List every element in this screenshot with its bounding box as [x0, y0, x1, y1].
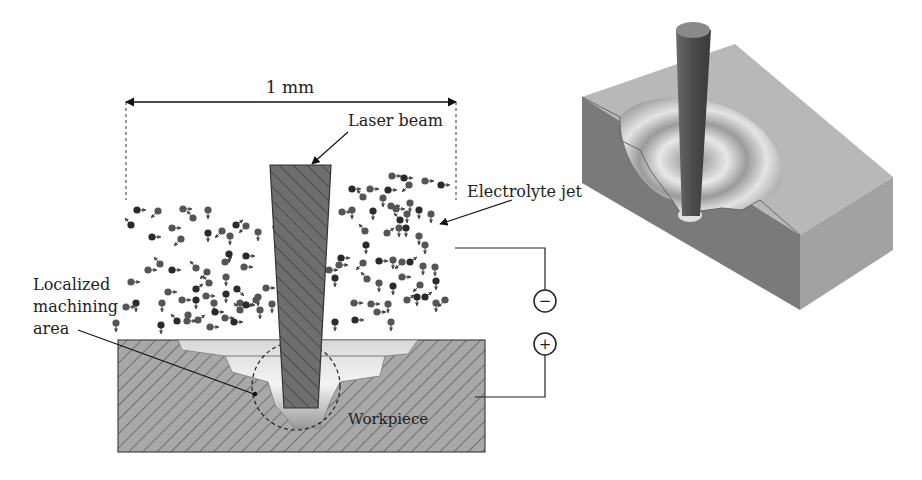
particle-dot: [388, 172, 395, 179]
electrolyte-particle: [398, 273, 411, 280]
electrolyte-particle: [383, 228, 394, 237]
particle-dot: [359, 259, 366, 266]
electrolyte-particle: [406, 199, 413, 212]
particle-dot: [389, 256, 396, 263]
electrolyte-particle: [361, 272, 371, 283]
electrolyte-particle: [403, 295, 414, 304]
electrolyte-particle: [366, 185, 379, 192]
localized-label-line2: machining: [33, 297, 118, 316]
electrolyte-particle: [226, 232, 233, 245]
particle-dot: [437, 181, 444, 188]
particle-dot: [156, 260, 163, 267]
laser-beam-pointer: [312, 132, 348, 164]
electrolyte-particle: [125, 218, 135, 229]
particle-dot: [192, 264, 199, 271]
particle-dot: [379, 194, 386, 201]
particle-dot: [413, 293, 420, 300]
localized-area-pointer-dot: [253, 392, 257, 396]
electrolyte-particle: [415, 206, 422, 219]
particle-dot: [204, 229, 211, 236]
electrolyte-particle: [192, 296, 199, 309]
particle-dot: [133, 206, 140, 213]
particle-dot: [441, 296, 448, 303]
electrolyte-particle: [192, 284, 203, 293]
electrolyte-particle: [200, 268, 211, 279]
particle-dot: [384, 186, 391, 193]
electrolyte-particle: [158, 299, 165, 312]
electrolyte-particle: [403, 210, 410, 223]
electrolyte-particle: [179, 205, 192, 212]
electrolyte-particle: [242, 252, 255, 259]
electrolyte-particle: [204, 206, 211, 219]
particle-dot: [406, 199, 413, 206]
circuit-wire-negative: [455, 248, 545, 290]
particle-dot: [375, 257, 382, 264]
particle-dot: [362, 241, 369, 248]
particle-dot: [240, 263, 247, 270]
particle-dot: [178, 296, 185, 303]
electrolyte-particle: [394, 213, 404, 224]
laser-beam-label: Laser beam: [348, 111, 443, 130]
particle-dot: [387, 318, 394, 325]
electrolyte-particle: [402, 181, 413, 192]
particle-dot: [396, 216, 403, 223]
electrolyte-particle: [230, 318, 243, 325]
particle-dot: [398, 258, 405, 265]
particle-dot: [236, 306, 243, 313]
localized-label-line1: Localized: [33, 275, 110, 294]
electrolyte-particle: [362, 241, 369, 254]
electrolyte-particle: [427, 210, 434, 223]
particle-dot: [367, 300, 374, 307]
electrolyte-particle: [413, 281, 424, 292]
positive-terminal-sign: +: [539, 335, 552, 353]
particle-dot: [432, 277, 439, 284]
particle-dot: [242, 222, 249, 229]
particle-dot: [204, 206, 211, 213]
electrolyte-particle: [222, 273, 229, 286]
electrolyte-particle: [127, 278, 140, 285]
electrolyte-particle: [387, 318, 394, 331]
particle-dot: [348, 185, 355, 192]
particle-dot: [225, 250, 232, 257]
electrolyte-particle: [221, 257, 232, 266]
particle-dot: [262, 284, 269, 291]
particle-dot: [211, 308, 218, 315]
electrolyte-particle: [232, 220, 243, 229]
electrolyte-particle: [335, 261, 348, 268]
particle-dot: [127, 278, 134, 285]
electrolyte-particle: [375, 279, 382, 292]
electrolyte-particle: [144, 266, 157, 273]
particle-dot: [192, 296, 199, 303]
particle-dot: [337, 254, 344, 261]
particle-dot: [164, 288, 171, 295]
electrolyte-particle: [190, 261, 200, 272]
electrolyte-particle: [388, 172, 401, 179]
electrolyte-particle: [421, 292, 432, 301]
electrolyte-particle: [215, 227, 226, 238]
particle-dot: [157, 321, 164, 328]
particle-dot: [400, 174, 407, 181]
particle-dot: [112, 319, 119, 326]
electrolyte-particle: [421, 177, 434, 184]
electrolyte-particle: [384, 300, 391, 313]
electrolyte-particle: [419, 262, 426, 275]
particle-dot: [384, 300, 391, 307]
electrolyte-particle: [431, 263, 438, 276]
electrolyte-particle: [154, 257, 164, 268]
electrolyte-particle: [356, 259, 367, 270]
electrolyte-particle: [375, 257, 388, 264]
electrolyte-particle: [395, 224, 402, 237]
electrolyte-particle: [174, 235, 185, 246]
particle-dot: [405, 181, 412, 188]
electrolyte-particle: [438, 296, 449, 307]
electrolyte-particle: [337, 254, 350, 261]
particle-dot: [122, 303, 129, 310]
particle-dot: [392, 205, 399, 212]
electrolyte-particle: [194, 315, 205, 324]
electrolyte-particle: [183, 317, 196, 324]
particle-dot: [415, 232, 422, 239]
electrolyte-particle: [240, 263, 253, 270]
particle-dot: [268, 300, 275, 307]
particle-dot: [158, 299, 165, 306]
particle-dot: [359, 193, 366, 200]
